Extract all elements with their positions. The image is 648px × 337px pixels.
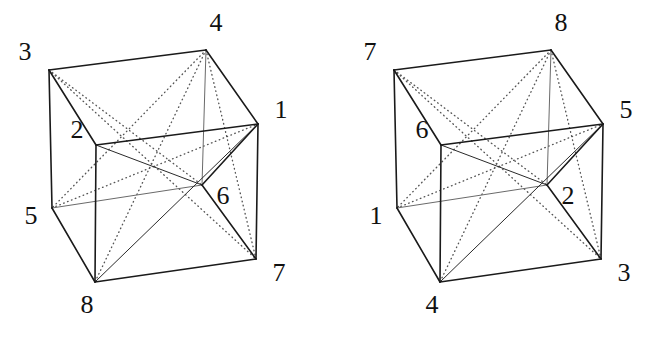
right-cube-dotted-diagonal-top_back_left-to-bottom_front_right (394, 70, 601, 259)
right-cube-hidden-edge-top_back_right-to-bottom_back_right (547, 50, 551, 185)
vertex-label-8: 8 (81, 290, 94, 319)
left-cube-hidden-edge-top_back_right-to-bottom_back_right (202, 50, 206, 185)
right-cube-solid-diagonal-bottom_front_left-to-top_front_right (440, 124, 603, 282)
left-cube-edge-bottom_back_right-to-top_front_right (202, 124, 258, 185)
right-cube: 78651243 (364, 8, 633, 319)
vertex-label-2: 2 (562, 181, 575, 210)
left-cube-vertex-labels: 34215687 (19, 8, 288, 319)
vertex-label-1: 1 (275, 95, 288, 124)
left-cube-dotted-diagonal-top_back_left-to-bottom_front_right (49, 70, 256, 259)
right-cube-solid-diagonals (440, 124, 603, 282)
left-cube-solid-diagonal-bottom_front_left-to-top_front_right (95, 124, 258, 282)
right-cube-solid-diagonal-top_front_left-to-bottom_back_right (441, 145, 547, 185)
left-cube: 34215687 (19, 8, 288, 319)
cube-diagram-canvas: 3421568778651243 (0, 0, 648, 337)
left-cube-dotted-diagonals (49, 50, 258, 282)
vertex-label-8: 8 (555, 8, 568, 37)
vertex-label-3: 3 (19, 37, 32, 66)
vertex-label-5: 5 (620, 95, 633, 124)
right-cube-edge-bottom_back_left-to-bottom_front_left (397, 208, 440, 282)
left-cube-hidden-edge-bottom_back_left-to-bottom_back_right (52, 185, 202, 208)
left-cube-edge-top_front_left-to-bottom_front_left (95, 145, 96, 282)
left-cube-solid-diagonal-top_front_left-to-bottom_back_right (96, 145, 202, 185)
vertex-label-2: 2 (71, 115, 84, 144)
left-cube-edge-top_back_right-to-top_front_right (206, 50, 258, 124)
right-cube-edge-top_front_right-to-bottom_front_right (601, 124, 603, 259)
right-cube-dotted-diagonals (394, 50, 603, 282)
right-cube-edge-top_back_left-to-bottom_back_left (394, 70, 397, 208)
vertex-label-7: 7 (364, 37, 377, 66)
left-cube-edge-top_back_left-to-bottom_back_left (49, 70, 52, 208)
vertex-label-3: 3 (618, 258, 631, 287)
vertex-label-6: 6 (416, 115, 429, 144)
left-cube-solid-diagonals (95, 124, 258, 282)
figure-root: 3421568778651243 (0, 0, 648, 337)
vertex-label-4: 4 (210, 8, 223, 37)
right-cube-edge-top_back_right-to-top_front_right (551, 50, 603, 124)
left-cube-edge-bottom_front_left-to-bottom_front_right (95, 259, 256, 282)
left-cube-edge-top_back_left-to-top_back_right (49, 50, 206, 70)
left-cube-edge-bottom_back_left-to-bottom_front_left (52, 208, 95, 282)
right-cube-edge-top_front_left-to-bottom_front_left (440, 145, 441, 282)
right-cube-vertex-labels: 78651243 (364, 8, 633, 319)
vertex-label-4: 4 (426, 290, 439, 319)
right-cube-edge-top_back_left-to-top_back_right (394, 50, 551, 70)
right-cube-edge-bottom_back_right-to-top_front_right (547, 124, 603, 185)
vertex-label-1: 1 (370, 201, 383, 230)
vertex-label-5: 5 (25, 201, 38, 230)
vertex-label-6: 6 (217, 181, 230, 210)
right-cube-edge-bottom_front_left-to-bottom_front_right (440, 259, 601, 282)
left-cube-edge-top_front_right-to-bottom_front_right (256, 124, 258, 259)
right-cube-hidden-edge-bottom_back_left-to-bottom_back_right (397, 185, 547, 208)
vertex-label-7: 7 (273, 258, 286, 287)
